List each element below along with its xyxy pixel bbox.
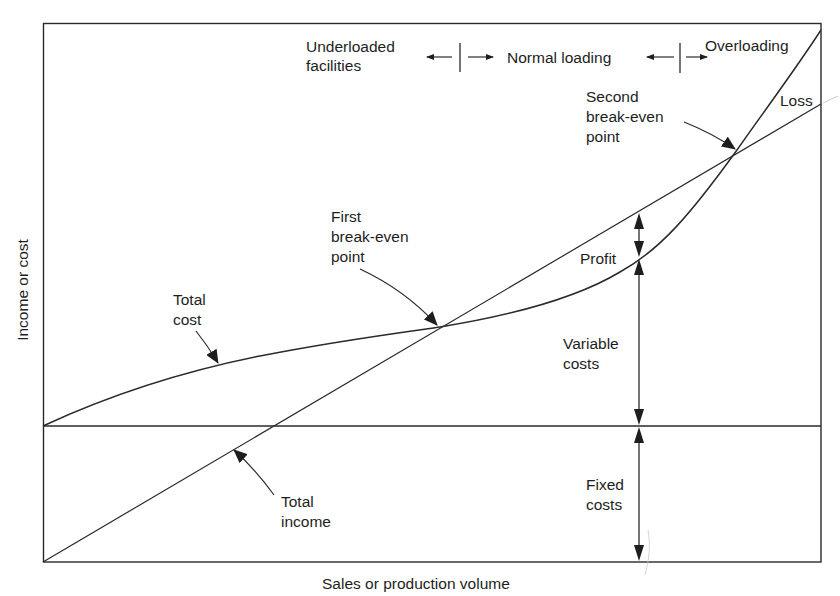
fixed-costs-line1: Fixed: [586, 475, 624, 494]
scan-artifact: [645, 530, 649, 575]
total-income-label-line1: Total: [281, 492, 314, 511]
break-even-diagram: [0, 0, 840, 596]
first-break-even-line3: point: [331, 247, 365, 266]
total-cost-curve: [43, 30, 821, 426]
total-income-label-line2: income: [281, 512, 331, 531]
fixed-arrowhead-down: [634, 545, 644, 561]
underloaded-label-line1: Underloaded: [306, 37, 395, 56]
second-break-even-line1: Second: [586, 87, 639, 106]
loss-label: Loss: [780, 91, 813, 110]
fixed-costs-line2: costs: [586, 495, 622, 514]
total-cost-pointer: [196, 331, 218, 363]
plot-frame: [44, 24, 822, 563]
profit-arrowhead-up: [634, 213, 644, 229]
total-cost-label-line1: Total: [173, 290, 206, 309]
variable-arrowhead-down: [634, 409, 644, 425]
variable-arrowhead-up: [634, 259, 644, 275]
first-break-even-pointer: [360, 269, 437, 325]
second-break-even-line2: break-even: [586, 107, 664, 126]
profit-label: Profit: [580, 249, 616, 268]
variable-costs-line2: costs: [563, 354, 599, 373]
fixed-arrowhead-up: [634, 427, 644, 443]
underloaded-label-line2: facilities: [306, 56, 361, 75]
total-income-pointer: [234, 450, 274, 495]
profit-arrowhead-down: [634, 241, 644, 257]
normal-loading-label: Normal loading: [507, 48, 611, 67]
second-break-even-pointer: [684, 122, 735, 149]
total-income-line: [43, 104, 821, 562]
scan-artifact: [823, 96, 838, 103]
y-axis-label: Income or cost: [14, 239, 32, 341]
first-break-even-line1: First: [331, 207, 361, 226]
first-break-even-line2: break-even: [331, 227, 409, 246]
x-axis-label: Sales or production volume: [322, 574, 510, 593]
total-cost-label-line2: cost: [173, 310, 201, 329]
overloading-label: Overloading: [705, 36, 789, 55]
second-break-even-line3: point: [586, 127, 620, 146]
variable-costs-line1: Variable: [563, 334, 619, 353]
